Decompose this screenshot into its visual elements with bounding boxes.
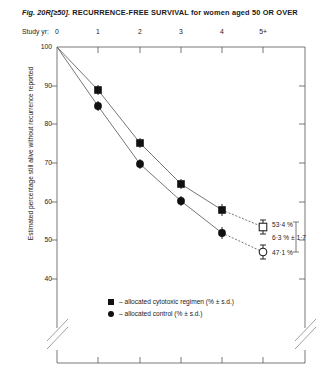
legend-label-cytotoxic: – allocated cytotoxic regimen (% ± s.d.) xyxy=(119,298,234,305)
figure-container: Fig. 20R[≥50]. RECURRENCE-FREE SURVIVAL … xyxy=(0,0,331,388)
cytotoxic-marker-yr5-open xyxy=(259,223,267,231)
control-marker-yr3 xyxy=(177,197,185,205)
series-control xyxy=(57,47,267,259)
cytotoxic-marker-yr1 xyxy=(94,86,102,94)
control-dashed-tail xyxy=(222,233,263,252)
legend-item-control: – allocated control (% ± s.d.) xyxy=(108,310,203,317)
control-marker-yr5-open xyxy=(259,248,267,256)
control-marker-yr4 xyxy=(218,229,226,237)
axis-break-right xyxy=(295,319,316,350)
cytotoxic-line xyxy=(57,47,222,210)
filled-square-icon xyxy=(108,299,114,305)
series-cytotoxic xyxy=(57,47,267,234)
control-marker-yr2 xyxy=(136,160,144,168)
filled-circle-icon xyxy=(108,311,114,317)
legend-label-control: – allocated control (% ± s.d.) xyxy=(119,310,203,317)
cytotoxic-marker-yr4 xyxy=(218,206,226,214)
legend-item-cytotoxic: – allocated cytotoxic regimen (% ± s.d.) xyxy=(108,298,234,305)
cytotoxic-marker-yr2 xyxy=(136,139,144,147)
cytotoxic-dashed-tail xyxy=(222,210,263,227)
annotation-cytotoxic-endpoint: 53·4 % xyxy=(272,221,293,228)
control-marker-yr1 xyxy=(94,102,102,110)
plot-canvas xyxy=(0,0,331,388)
annotation-difference: 6·3 % ± 1·7 xyxy=(272,234,306,241)
axis-break-left xyxy=(47,319,68,350)
annotation-control-endpoint: 47·1 % xyxy=(272,249,293,256)
cytotoxic-marker-yr3 xyxy=(177,180,185,188)
